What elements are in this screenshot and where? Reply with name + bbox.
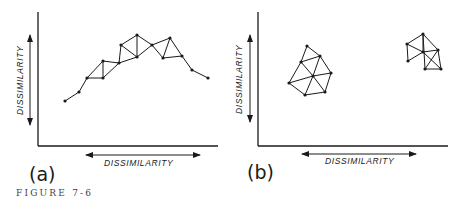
graph-node (190, 68, 193, 71)
graph-edge (305, 76, 313, 95)
graph-node (85, 76, 88, 79)
panel-b: DISSIMILARITY DISSIMILARITY (b) (234, 12, 448, 183)
graph-edge (152, 38, 170, 45)
panel-a-label: (a) (29, 163, 55, 185)
panel-b-label: (b) (247, 161, 274, 183)
graph-node (405, 42, 408, 45)
graph-edge (325, 73, 331, 92)
graph-edge (103, 63, 119, 78)
graph-node (117, 61, 120, 64)
graph-edge (163, 56, 182, 58)
graph-edge (137, 45, 152, 57)
graph-node (303, 93, 306, 96)
graph-edge (192, 70, 208, 78)
panel-b-cluster-left (287, 44, 332, 96)
graph-edge (301, 62, 313, 76)
graph-node (150, 43, 153, 46)
panel-b-x-axis-label: DISSIMILARITY (325, 156, 395, 166)
panel-b-y-axis-label: DISSIMILARITY (234, 44, 244, 114)
graph-node (101, 59, 104, 62)
graph-edge (313, 76, 325, 92)
graph-node (287, 81, 290, 84)
graph-edge (423, 50, 438, 52)
graph-node (161, 56, 164, 59)
graph-node (168, 36, 171, 39)
graph-node (63, 99, 66, 102)
graph-edge (408, 52, 423, 61)
graph-edge (119, 57, 137, 63)
graph-edge (182, 56, 192, 70)
panel-a-x-axis-label: DISSIMILARITY (104, 158, 174, 168)
panel-a-y-axis-label: DISSIMILARITY (15, 45, 25, 115)
graph-edge (307, 46, 320, 56)
graph-edge (313, 73, 331, 76)
graph-edge (305, 92, 325, 95)
graph-node (436, 48, 439, 51)
graph-node (323, 90, 326, 93)
graph-edge (423, 34, 438, 50)
graph-edge (407, 44, 408, 61)
graph-node (119, 43, 122, 46)
graph-node (421, 32, 424, 35)
graph-node (135, 33, 138, 36)
graph-node (423, 67, 426, 70)
graph-node (135, 55, 138, 58)
graph-edge (407, 34, 423, 44)
graph-edge (407, 44, 423, 52)
graph-edge (152, 45, 163, 58)
graph-edge (87, 61, 103, 78)
graph-node (77, 90, 80, 93)
graph-node (305, 44, 308, 47)
figure-caption: FIGURE 7-6 (16, 188, 93, 198)
figure-canvas: DISSIMILARITY DISSIMILARITY (a) DISSIMIL… (0, 0, 460, 209)
graph-edge (121, 35, 137, 45)
graph-edge (119, 45, 121, 63)
panel-b-cluster-right (405, 32, 442, 70)
graph-node (311, 74, 314, 77)
graph-node (101, 76, 104, 79)
graph-edge (103, 61, 119, 63)
graph-node (180, 54, 183, 57)
graph-edge (79, 78, 87, 92)
graph-edge (289, 83, 305, 95)
graph-edge (121, 45, 137, 57)
graph-node (421, 50, 424, 53)
graph-edge (65, 92, 79, 101)
graph-edge (320, 56, 331, 73)
graph-node (406, 59, 409, 62)
graph-edge (137, 35, 152, 45)
graph-node (318, 54, 321, 57)
graph-node (299, 60, 302, 63)
graph-edge (163, 38, 170, 58)
graph-edge (301, 56, 320, 62)
graph-node (439, 67, 442, 70)
graph-edge (301, 46, 307, 62)
panel-a: DISSIMILARITY DISSIMILARITY (a) (15, 12, 218, 185)
graph-edge (170, 38, 182, 56)
panel-a-graph (63, 33, 209, 102)
graph-edge (313, 56, 320, 76)
graph-node (206, 76, 209, 79)
graph-node (329, 71, 332, 74)
